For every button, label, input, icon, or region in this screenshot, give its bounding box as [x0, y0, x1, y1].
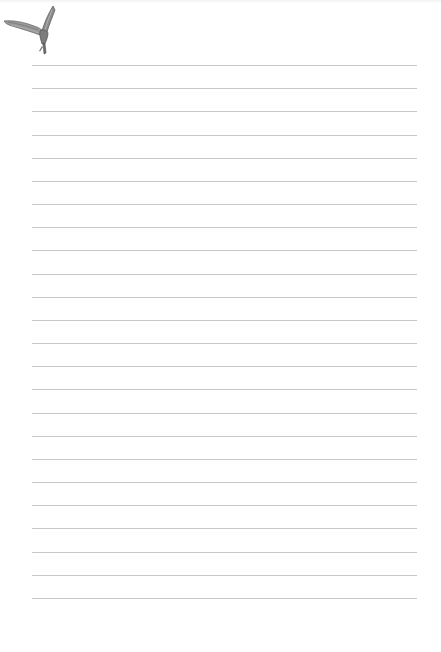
ruled-line — [32, 505, 417, 506]
ruled-line — [32, 135, 417, 136]
ruled-line — [32, 65, 417, 66]
ruled-lines — [32, 0, 417, 652]
ruled-line — [32, 88, 417, 89]
ruled-line — [32, 274, 417, 275]
ruled-line — [32, 366, 417, 367]
ruled-line — [32, 552, 417, 553]
ruled-line — [32, 575, 417, 576]
ruled-line — [32, 250, 417, 251]
ruled-line — [32, 158, 417, 159]
ruled-line — [32, 389, 417, 390]
ruled-line — [32, 528, 417, 529]
ruled-line — [32, 436, 417, 437]
ruled-line — [32, 297, 417, 298]
ruled-line — [32, 181, 417, 182]
ruled-line — [32, 204, 417, 205]
ruled-line — [32, 459, 417, 460]
lined-paper-page — [0, 0, 441, 652]
ruled-line — [32, 343, 417, 344]
ruled-line — [32, 227, 417, 228]
ruled-line — [32, 413, 417, 414]
ruled-line — [32, 482, 417, 483]
ruled-line — [32, 320, 417, 321]
ruled-line — [32, 111, 417, 112]
ruled-line — [32, 598, 417, 599]
